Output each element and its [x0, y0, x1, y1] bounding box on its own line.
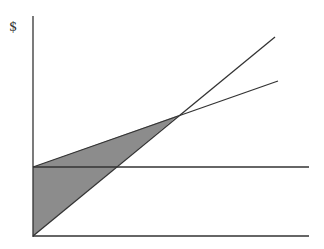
- total-revenue-line: [33, 37, 275, 236]
- total-cost-line: [33, 81, 278, 167]
- break-even-chart: [0, 0, 324, 249]
